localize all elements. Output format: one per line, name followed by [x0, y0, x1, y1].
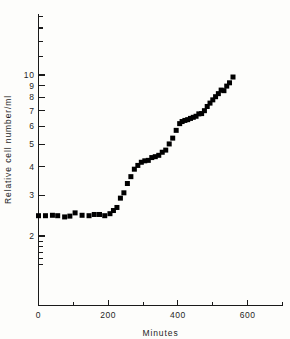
- data-point: [87, 213, 92, 218]
- y-tick-label-5: 5: [29, 139, 34, 149]
- y-tick-label-9: 9: [29, 81, 34, 91]
- x-tick-label-0: 0: [36, 310, 41, 320]
- data-point: [102, 213, 107, 218]
- data-point: [36, 213, 41, 218]
- y-tick-label-8: 8: [29, 92, 34, 102]
- y-tick-group: 2345678910: [24, 16, 45, 265]
- x-tick-label-400: 400: [170, 310, 186, 320]
- data-point: [163, 148, 168, 153]
- data-point: [231, 75, 236, 80]
- y-tick-label-3: 3: [29, 190, 34, 200]
- data-point: [221, 88, 226, 93]
- data-point: [121, 190, 126, 195]
- data-point: [227, 80, 232, 85]
- y-tick-label-7: 7: [29, 106, 34, 116]
- data-point: [50, 213, 55, 218]
- data-point: [67, 214, 72, 219]
- data-point: [125, 181, 130, 186]
- data-point: [92, 212, 97, 217]
- y-tick-label-2: 2: [29, 231, 34, 241]
- x-tick-label-600: 600: [240, 310, 256, 320]
- x-tick-group: 0200400600: [36, 300, 283, 320]
- data-point: [128, 174, 133, 179]
- data-point: [118, 196, 123, 201]
- data-point: [97, 212, 102, 217]
- axes-group: [39, 14, 283, 306]
- y-tick-label-10: 10: [24, 70, 35, 80]
- data-point: [114, 205, 119, 210]
- x-tick-label-200: 200: [100, 310, 116, 320]
- growth-curve-chart: 0200400600 2345678910 Minutes Relative c…: [0, 0, 290, 339]
- x-axis-title: Minutes: [142, 328, 178, 338]
- data-point: [73, 210, 78, 215]
- figure-container: 0200400600 2345678910 Minutes Relative c…: [0, 0, 290, 339]
- data-point-group: [36, 75, 236, 220]
- data-point: [62, 214, 67, 219]
- data-point: [174, 128, 179, 133]
- y-tick-label-4: 4: [29, 162, 34, 172]
- data-point: [55, 213, 60, 218]
- data-point: [170, 136, 175, 141]
- data-point: [167, 141, 172, 146]
- data-point: [80, 213, 85, 218]
- y-tick-label-6: 6: [29, 121, 34, 131]
- data-point: [43, 213, 48, 218]
- y-axis-title: Relative cell number/ml: [3, 95, 13, 204]
